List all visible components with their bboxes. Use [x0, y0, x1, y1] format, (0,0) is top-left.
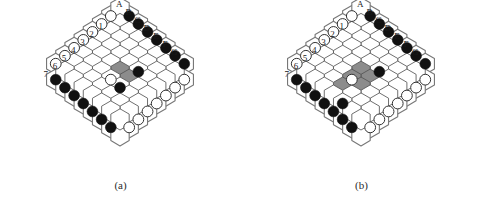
col-label-C: C — [134, 15, 140, 25]
col-label-D: D — [143, 23, 150, 33]
border-stone-white-right-6 — [124, 122, 135, 133]
border-stone-white-right-0 — [179, 74, 190, 85]
border-stone-black-top-G — [179, 58, 190, 69]
border-stone-white-right-5 — [374, 114, 385, 125]
row-label-7: 7 — [284, 69, 289, 79]
stone-black-E3 — [133, 66, 144, 77]
border-stone-black-bottom-6 — [105, 122, 116, 133]
border-stone-black-bottom-3 — [319, 98, 330, 109]
hex-board-b: ABCDEFG1234567 — [241, 0, 482, 197]
stone-white-D5 — [105, 74, 116, 85]
row-label-2: 2 — [330, 29, 335, 39]
border-stone-white-left-1 — [346, 11, 357, 22]
border-stone-white-right-2 — [161, 90, 172, 101]
border-stone-black-bottom-4 — [87, 106, 98, 117]
border-stone-black-bottom-0 — [50, 74, 61, 85]
col-label-B: B — [366, 7, 372, 17]
row-label-4: 4 — [71, 45, 76, 55]
figure-root: ABCDEFG1234567 (a) ABCDEFG1234567 (b) — [0, 0, 482, 197]
panel-a: ABCDEFG1234567 (a) — [0, 0, 241, 197]
border-stone-white-left-1 — [105, 11, 116, 22]
border-stone-white-right-4 — [142, 106, 153, 117]
col-label-E: E — [153, 31, 159, 41]
col-label-F: F — [404, 39, 409, 49]
col-label-D: D — [384, 23, 391, 33]
border-stone-black-bottom-6 — [346, 122, 357, 133]
stone-white-D5 — [346, 74, 357, 85]
border-stone-white-right-3 — [392, 98, 403, 109]
col-label-A: A — [116, 0, 123, 9]
border-stone-black-bottom-5 — [337, 114, 348, 125]
caption-a: (a) — [0, 179, 241, 191]
border-stone-white-right-0 — [420, 74, 431, 85]
row-label-6: 6 — [294, 61, 299, 71]
col-label-E: E — [394, 31, 400, 41]
border-stone-black-bottom-2 — [69, 90, 80, 101]
col-label-C: C — [375, 15, 381, 25]
col-label-G: G — [171, 47, 178, 57]
border-stone-black-bottom-1 — [301, 82, 312, 93]
panel-b: ABCDEFG1234567 (b) — [241, 0, 482, 197]
stone-black-E5 — [115, 82, 126, 93]
border-stone-black-top-G — [420, 58, 431, 69]
row-label-3: 3 — [80, 37, 85, 47]
border-stone-black-bottom-5 — [96, 114, 107, 125]
row-label-3: 3 — [321, 37, 326, 47]
row-label-5: 5 — [62, 53, 67, 63]
border-stone-black-bottom-1 — [60, 82, 71, 93]
col-label-B: B — [125, 7, 131, 17]
row-label-6: 6 — [53, 61, 58, 71]
border-stone-white-right-5 — [133, 114, 144, 125]
col-label-A: A — [357, 0, 364, 9]
border-stone-black-bottom-2 — [310, 90, 321, 101]
border-stone-white-right-6 — [365, 122, 376, 133]
border-stone-black-bottom-4 — [328, 106, 339, 117]
row-label-1: 1 — [340, 21, 345, 31]
stone-black-E3 — [374, 66, 385, 77]
border-stone-black-bottom-0 — [291, 74, 302, 85]
row-label-4: 4 — [312, 45, 317, 55]
row-label-5: 5 — [303, 53, 308, 63]
hex-board-a: ABCDEFG1234567 — [0, 0, 241, 197]
border-stone-black-bottom-3 — [78, 98, 89, 109]
row-label-1: 1 — [99, 21, 104, 31]
row-label-7: 7 — [43, 69, 48, 79]
border-stone-white-right-1 — [170, 82, 181, 93]
stone-black-E7 — [337, 98, 348, 109]
border-stone-white-right-4 — [383, 106, 394, 117]
caption-b: (b) — [241, 179, 482, 191]
border-stone-white-right-2 — [402, 90, 413, 101]
border-stone-white-right-3 — [151, 98, 162, 109]
col-label-F: F — [163, 39, 168, 49]
row-label-2: 2 — [89, 29, 94, 39]
border-stone-white-right-1 — [411, 82, 422, 93]
col-label-G: G — [412, 47, 419, 57]
